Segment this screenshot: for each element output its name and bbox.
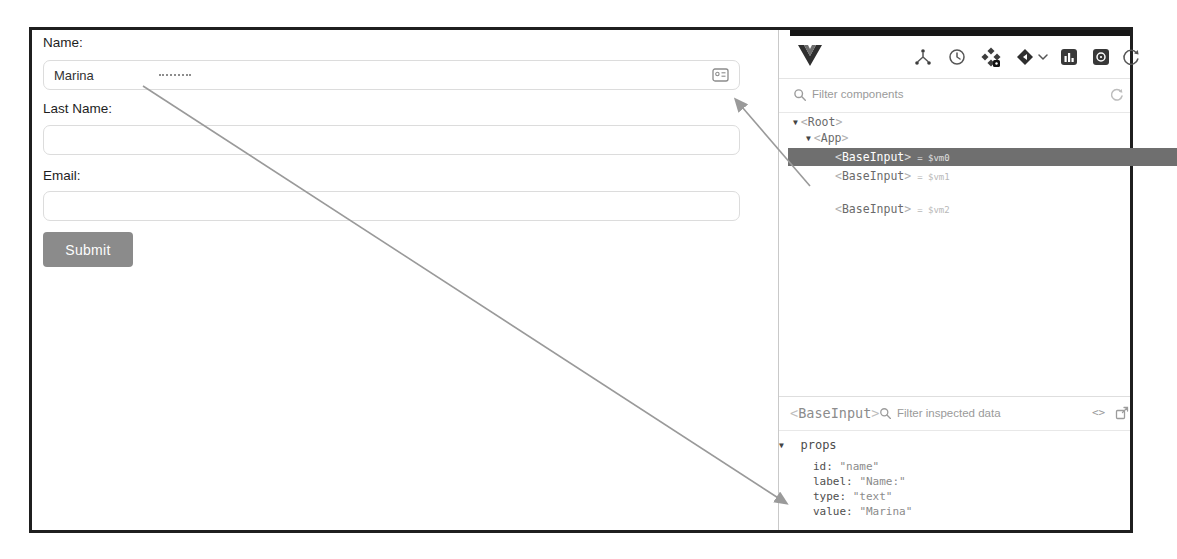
email-input[interactable] [43, 191, 740, 221]
props-section-header[interactable]: ▼ props [779, 434, 1130, 453]
vm-ref-badge: = $vm2 [917, 205, 950, 215]
tree-row-baseinput-selected[interactable]: <BaseInput>= $vm0 [788, 148, 1177, 166]
screenshot-frame: Name: Marina Last Name: Email: Submit [29, 27, 1133, 533]
refresh-icon[interactable] [1121, 47, 1141, 67]
name-input-value: Marina [54, 68, 712, 83]
name-input[interactable]: Marina [43, 60, 740, 90]
open-in-editor-icon[interactable] [1115, 406, 1129, 420]
active-tab-underline [159, 74, 191, 76]
email-label: Email: [43, 168, 81, 183]
caret-down-icon[interactable]: ▼ [793, 115, 798, 131]
tree-row-root[interactable]: ▼<Root> [779, 114, 1130, 130]
filter-inspected-placeholder[interactable]: Filter inspected data [897, 407, 1001, 419]
search-icon [879, 407, 892, 420]
name-label: Name: [43, 35, 83, 50]
tree-row-baseinput-3[interactable]: <BaseInput>= $vm2 [779, 201, 1130, 217]
lastname-input[interactable] [43, 125, 740, 155]
caret-down-icon[interactable]: ▼ [806, 131, 811, 147]
caret-down-icon[interactable]: ▼ [779, 441, 784, 450]
app-selector-icon[interactable] [1015, 47, 1049, 67]
prop-row-id[interactable]: id: "name" [813, 461, 1130, 472]
prop-row-value[interactable]: value: "Marina" [813, 506, 1130, 517]
autofill-contact-icon[interactable] [712, 68, 729, 82]
search-icon [793, 88, 807, 102]
component-tree: ▼<Root> ▼<App> [779, 114, 1130, 146]
vm-ref-badge: = $vm1 [917, 172, 950, 182]
chart-panel-icon[interactable] [1059, 47, 1079, 67]
filter-components-bar[interactable]: Filter components [779, 79, 1130, 113]
submit-button[interactable]: Submit [43, 232, 133, 267]
devtools-toolbar [779, 36, 1130, 79]
inspected-component-tag: <BaseInput> [790, 405, 879, 421]
snapshot-panel-icon[interactable] [1091, 47, 1111, 67]
plugins-tab-icon[interactable] [981, 47, 1001, 67]
vm-ref-badge: = $vm0 [917, 153, 950, 163]
inspector-header: <BaseInput> Filter inspected data <> [779, 396, 1130, 431]
tree-row-app[interactable]: ▼<App> [779, 130, 1130, 146]
tree-row-baseinput-2[interactable]: <BaseInput>= $vm1 [779, 168, 1130, 184]
tree-refresh-icon[interactable] [1109, 87, 1124, 102]
vue-logo-icon [797, 44, 823, 68]
filter-components-placeholder: Filter components [812, 88, 903, 100]
timeline-tab-icon[interactable] [947, 47, 967, 67]
components-tab-icon[interactable] [913, 47, 933, 67]
props-panel: ▼ props id: "name" label: "Name:" type: … [779, 434, 1130, 517]
prop-row-label[interactable]: label: "Name:" [813, 476, 1130, 487]
prop-row-type[interactable]: type: "text" [813, 491, 1130, 502]
inspect-dom-icon[interactable]: <> [1092, 406, 1105, 419]
lastname-label: Last Name: [43, 101, 112, 116]
